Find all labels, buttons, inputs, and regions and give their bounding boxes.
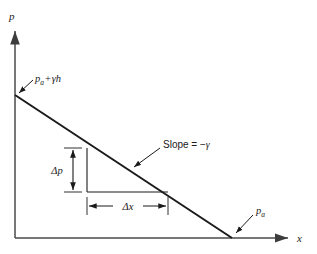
y-intercept-label: pa + γh (34, 73, 61, 87)
delta-x-symbol-glyph: x (128, 201, 134, 212)
y-axis-label: p (8, 10, 15, 22)
delta-p-symbol-glyph: p (56, 165, 62, 176)
y-intercept-operator-glyph: + (44, 73, 52, 84)
y-intercept-leader-line (19, 80, 33, 93)
x-intercept-subscript-glyph: a (261, 210, 265, 219)
x-intercept-callout-group: pa (236, 205, 265, 233)
delta-p-label: Δp (50, 165, 62, 176)
delta-x-label: Δx (122, 201, 134, 212)
x-intercept-leader-line (236, 215, 253, 233)
y-intercept-callout-group: pa + γh (19, 73, 61, 93)
slope-leader-line (134, 148, 160, 167)
axes-group (15, 31, 288, 238)
pressure-distribution-line (15, 95, 232, 238)
slope-label: Slope = −γ (163, 139, 211, 150)
delta-p-delta-glyph: Δ (50, 165, 57, 176)
delta-x-delta-glyph: Δ (122, 201, 129, 212)
x-intercept-label: pa (255, 205, 265, 219)
figure-canvas: Δp Δx Slope = −γ pa + γh (0, 0, 317, 254)
y-intercept-h-glyph: h (56, 73, 61, 84)
slope-prefix-text: Slope = (163, 139, 200, 150)
delta-p-dimension-group: Δp (50, 148, 82, 192)
slope-gamma-glyph: γ (206, 139, 211, 150)
x-axis-label: x (296, 232, 302, 244)
slope-callout-group: Slope = −γ (134, 139, 211, 167)
delta-x-dimension-group: Δx (87, 197, 168, 215)
pressure-line-group (15, 95, 232, 238)
pressure-distribution-figure: Δp Δx Slope = −γ pa + γh (0, 0, 317, 254)
